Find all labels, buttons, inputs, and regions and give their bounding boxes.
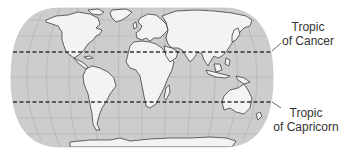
tropic-of-capricorn-label-line2: of Capricorn [272, 120, 340, 134]
tropic-of-cancer-label-line2: of Cancer [280, 34, 336, 48]
tropic-of-cancer-label: Tropic of Cancer [280, 20, 336, 48]
tropic-of-cancer-label-line1: Tropic [280, 20, 336, 34]
tropic-of-capricorn-label: Tropic of Capricorn [272, 106, 340, 134]
tropic-of-capricorn-label-line1: Tropic [272, 106, 340, 120]
